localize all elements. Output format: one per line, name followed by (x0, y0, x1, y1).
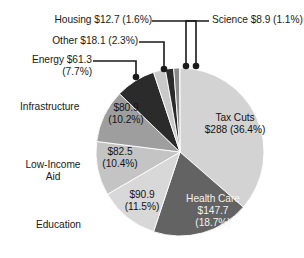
leader-line-energy (93, 61, 136, 77)
leader-dot-housing (193, 63, 200, 70)
label-education: Education (36, 219, 116, 231)
value-education-line2: (11.5%) (117, 201, 167, 213)
label-low-income-aid-line1: Low-Income (8, 159, 98, 171)
value-low-income-aid-line1: $82.5 (95, 146, 145, 158)
label-housing: Housing $12.7 (1.6%) (28, 14, 152, 26)
label-other: Other $18.1 (2.3%) (12, 35, 138, 47)
value-health-care-line2: $147.7 (173, 205, 253, 217)
value-tax-cuts-line1: Tax Cuts (192, 112, 278, 124)
value-health-care-line1: Health Care (173, 193, 253, 205)
leader-dot-other (161, 66, 168, 73)
value-low-income-aid-line2: (10.4%) (95, 158, 145, 170)
leader-line-housing (152, 21, 196, 66)
leader-line-other (139, 42, 164, 69)
leader-line-science (186, 21, 209, 66)
label-low-income-aid-line2: Aid (8, 171, 98, 183)
label-energy-percent: (7.7%) (8, 66, 92, 78)
leader-dot-energy (133, 74, 140, 81)
label-science: Science $8.9 (1.1%) (212, 14, 302, 26)
value-education-line1: $90.9 (117, 189, 167, 201)
value-tax-cuts-line2: $288 (36.4%) (186, 124, 284, 136)
label-infrastructure: Infrastructure (20, 101, 110, 113)
leader-dot-science (183, 63, 190, 70)
value-infrastructure-line1: $80.9 (100, 102, 152, 114)
value-health-care-line3: (18.7%) (173, 217, 253, 229)
value-infrastructure-line2: (10.2%) (100, 114, 152, 126)
label-energy-name: Energy $61.3 (8, 54, 92, 66)
pie-chart: Housing $12.7 (1.6%) Science $8.9 (1.1%)… (0, 0, 304, 258)
